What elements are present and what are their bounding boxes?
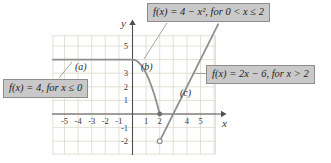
y-axis-arrow [129,20,135,26]
svg-text:-3: -3 [88,116,95,126]
y-axis-letter: y [120,17,126,29]
svg-text:-2: -2 [102,116,109,126]
svg-text:1: 1 [144,116,148,126]
svg-text:5: 5 [124,41,128,51]
svg-text:3: 3 [124,68,128,78]
svg-text:5: 5 [198,116,202,126]
x-tick-labels: -5-4-3-2-11245 [61,116,203,126]
svg-text:-4: -4 [75,116,83,126]
curve-label-b: (b) [141,61,153,72]
y-tick-labels: 5321-1-2 [121,41,128,146]
formula-box-parabola: f(x) = 4 − x², for 0 < x ≤ 2 [147,3,270,22]
formula-box-linear: f(x) = 2x − 6, for x > 2 [206,65,315,84]
svg-text:-5: -5 [61,116,68,126]
svg-text:4: 4 [185,116,190,126]
svg-text:2: 2 [124,82,128,92]
curve-label-a: (a) [75,61,87,72]
formula-box-constant: f(x) = 4, for x ≤ 0 [3,79,88,98]
piecewise-function-figure: -5-4-3-2-112455321-1-2xy f(x) = 4 − x², … [0,0,331,163]
x-axis-letter: x [221,117,227,129]
curve-label-c: (c) [180,87,191,98]
svg-text:-1: -1 [121,123,128,133]
svg-text:2: 2 [158,116,162,126]
open-endpoint-marker [157,139,162,144]
svg-text:-2: -2 [121,136,128,146]
svg-text:1: 1 [124,95,128,105]
